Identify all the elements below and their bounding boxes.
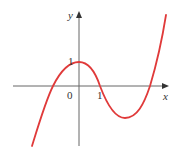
origin-label: 0 [67,89,73,101]
y-axis-arrow-icon [76,11,82,18]
x-tick-label-1: 1 [97,89,103,101]
graph: y x 1 0 1 [0,0,176,156]
y-axis-label: y [67,9,73,21]
function-curve [32,15,166,146]
y-tick-label-1: 1 [68,55,74,67]
x-axis-label: x [162,90,168,102]
x-axis-arrow-icon [162,83,169,89]
